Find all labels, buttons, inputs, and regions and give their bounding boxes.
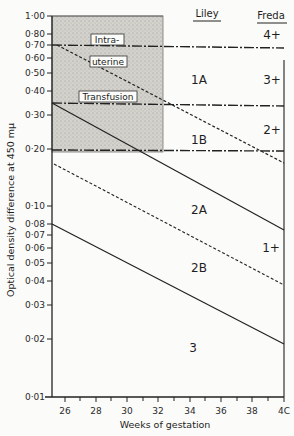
svg-text:0·03: 0·03 xyxy=(25,300,45,310)
freda-1-label: 1+ xyxy=(262,241,280,255)
svg-text:32: 32 xyxy=(152,406,163,416)
x-axis-title: Weeks of gestation xyxy=(120,419,211,430)
svg-text:0·05: 0·05 xyxy=(25,258,45,268)
liley-boundary-2b-3 xyxy=(52,224,284,344)
svg-text:30: 30 xyxy=(121,406,133,416)
zone-3-label: 3 xyxy=(189,341,197,355)
freda-3-label: 3+ xyxy=(263,73,281,87)
svg-text:Transfusion: Transfusion xyxy=(81,92,133,102)
zone-2b-label: 2B xyxy=(191,261,207,275)
svg-text:Intra-: Intra- xyxy=(95,35,119,45)
svg-text:26: 26 xyxy=(59,406,71,416)
svg-text:0·04: 0·04 xyxy=(25,276,45,286)
freda-header: Freda xyxy=(257,10,285,21)
zone-2a-label: 2A xyxy=(191,203,208,217)
svg-text:0·70: 0·70 xyxy=(25,40,45,50)
zone-1a-label: 1A xyxy=(191,73,208,87)
freda-4-label: 4+ xyxy=(263,28,281,42)
svg-text:36: 36 xyxy=(215,406,227,416)
svg-text:28: 28 xyxy=(90,406,102,416)
svg-text:0·80: 0·80 xyxy=(25,29,45,39)
svg-text:0·06: 0·06 xyxy=(25,243,45,253)
svg-text:34: 34 xyxy=(184,406,196,416)
svg-text:38: 38 xyxy=(246,406,258,416)
svg-text:0·50: 0·50 xyxy=(25,68,45,78)
svg-text:0·07: 0·07 xyxy=(25,230,45,240)
svg-text:0·40: 0·40 xyxy=(25,86,45,96)
x-ticks xyxy=(65,397,284,402)
liley-boundary-2a-2b xyxy=(54,164,284,285)
svg-text:1·00: 1·00 xyxy=(25,11,45,21)
y-axis-title: Optical density difference at 450 mμ xyxy=(5,123,16,297)
freda-2-label: 2+ xyxy=(263,123,281,137)
svg-text:0·10: 0·10 xyxy=(25,201,45,211)
x-tick-labels: 26 28 30 32 34 36 38 4C xyxy=(59,406,290,416)
svg-text:0·60: 0·60 xyxy=(25,53,45,63)
liley-header: Liley xyxy=(195,8,218,19)
svg-text:0·01: 0·01 xyxy=(25,392,45,402)
svg-text:uterine: uterine xyxy=(92,57,125,67)
svg-text:0·30: 0·30 xyxy=(25,110,45,120)
zone-1b-label: 1B xyxy=(191,133,207,147)
svg-text:4C: 4C xyxy=(278,406,290,416)
liley-chart: 1·00 0·80 0·70 0·60 0·50 0·40 0·30 0·20 … xyxy=(0,0,294,436)
svg-text:0·02: 0·02 xyxy=(25,334,45,344)
y-tick-labels: 1·00 0·80 0·70 0·60 0·50 0·40 0·30 0·20 … xyxy=(25,11,45,402)
svg-text:0·20: 0·20 xyxy=(25,144,45,154)
svg-text:0·08: 0·08 xyxy=(25,219,45,229)
liley-boundary-1b-2a xyxy=(52,103,284,230)
y-ticks xyxy=(47,16,52,339)
